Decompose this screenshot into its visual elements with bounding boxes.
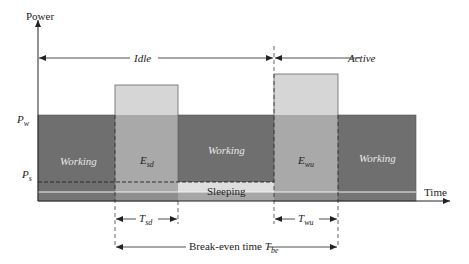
working-label-2: Working: [208, 144, 245, 156]
idle-label: Idle: [133, 52, 151, 64]
y-axis-label: Power: [26, 10, 54, 22]
working-label-3: Working: [359, 152, 396, 164]
ewu-block: [274, 115, 338, 201]
active-label: Active: [347, 52, 376, 64]
pw-label: Pw: [16, 113, 30, 128]
sleeping-label: Sleeping: [207, 185, 246, 197]
ps-label: Ps: [21, 168, 32, 183]
power-state-diagram: Power Time Pw Ps Idle Active Working Esd…: [0, 0, 469, 264]
x-axis-label: Time: [424, 186, 447, 198]
working-label-1: Working: [60, 155, 97, 167]
